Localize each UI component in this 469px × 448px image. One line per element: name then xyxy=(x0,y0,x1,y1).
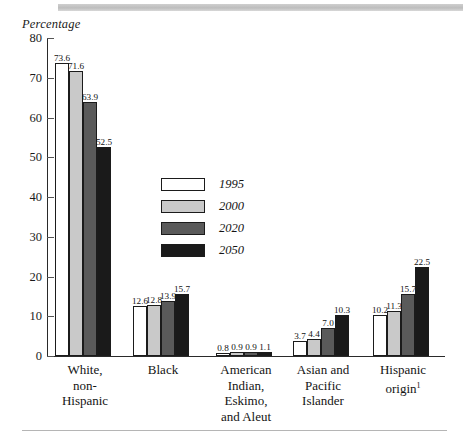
bar: 71.6 xyxy=(69,71,83,356)
y-axis-tick xyxy=(47,316,54,317)
bar-group: 3.74.47.010.3 xyxy=(293,38,349,356)
bar-value-label: 10.3 xyxy=(334,305,350,315)
legend-label: 2050 xyxy=(219,243,244,258)
bar: 0.9 xyxy=(230,352,244,356)
y-axis-tick xyxy=(47,197,54,198)
y-axis-tick-label: 80 xyxy=(2,31,42,46)
category-label-line: non- xyxy=(45,378,125,394)
legend-swatch xyxy=(161,222,205,235)
bar: 0.9 xyxy=(244,352,258,356)
legend-label: 2000 xyxy=(219,199,244,214)
bar-value-label: 63.9 xyxy=(82,92,98,102)
bar-value-label: 15.7 xyxy=(174,284,190,294)
category-label-line: Indian, xyxy=(206,378,286,394)
y-axis-tick xyxy=(47,118,54,119)
bar: 13.9 xyxy=(161,301,175,356)
bar: 7.0 xyxy=(321,328,335,356)
y-axis-tick xyxy=(47,356,54,357)
category-label: Asian andPacificIslander xyxy=(283,362,363,409)
y-axis-tick-label: 0 xyxy=(2,349,42,364)
category-label-line: and Aleut xyxy=(206,409,286,425)
bar: 3.7 xyxy=(293,341,307,356)
category-label-line: Eskimo, xyxy=(206,393,286,409)
bar: 12.6 xyxy=(133,306,147,356)
category-label-line: Asian and xyxy=(283,362,363,378)
bar-value-label: 0.8 xyxy=(217,343,228,353)
chart-page: Percentage 01020304050607080 73.671.663.… xyxy=(0,0,469,448)
bar: 73.6 xyxy=(55,63,69,356)
bar-value-label: 11.3 xyxy=(386,301,402,311)
category-label: White,non-Hispanic xyxy=(45,362,125,409)
category-label-line: Pacific xyxy=(283,378,363,394)
footnote-marker: 1 xyxy=(417,381,421,390)
y-axis-tick-label: 50 xyxy=(2,150,42,165)
bar-group: 10.211.315.722.5 xyxy=(373,38,429,356)
category-label: Hispanicorigin1 xyxy=(363,362,443,396)
header-rule xyxy=(58,4,463,11)
y-axis-tick-label: 60 xyxy=(2,110,42,125)
bar: 10.3 xyxy=(335,315,349,356)
y-axis-tick-label: 30 xyxy=(2,229,42,244)
legend-item[interactable]: 1995 xyxy=(161,176,244,193)
y-axis-tick-label: 70 xyxy=(2,70,42,85)
category-label: Black xyxy=(123,362,203,378)
bar: 12.8 xyxy=(147,305,161,356)
bar: 11.3 xyxy=(387,311,401,356)
bar: 15.7 xyxy=(175,294,189,356)
bar-group: 73.671.663.952.5 xyxy=(55,38,111,356)
bar-value-label: 0.9 xyxy=(231,342,242,352)
bar: 63.9 xyxy=(83,102,97,356)
y-axis-tick-label: 20 xyxy=(2,269,42,284)
x-axis-line xyxy=(47,356,445,357)
bar: 10.2 xyxy=(373,315,387,356)
bar-value-label: 0.9 xyxy=(245,342,256,352)
category-label: AmericanIndian,Eskimo,and Aleut xyxy=(206,362,286,424)
category-label-line: Islander xyxy=(283,393,363,409)
legend-label: 2020 xyxy=(219,221,244,236)
bar: 1.1 xyxy=(258,352,272,356)
category-label-line: Hispanic xyxy=(363,362,443,378)
legend-label: 1995 xyxy=(219,177,244,192)
y-axis-tick xyxy=(47,38,54,39)
category-label-line: American xyxy=(206,362,286,378)
legend-item[interactable]: 2020 xyxy=(161,220,244,237)
y-axis-tick-label: 10 xyxy=(2,309,42,324)
category-label-line: Black xyxy=(123,362,203,378)
legend-swatch xyxy=(161,178,205,191)
y-axis-tick-label: 40 xyxy=(2,190,42,205)
bar: 15.7 xyxy=(401,294,415,356)
bar-value-label: 1.1 xyxy=(259,342,270,352)
category-label-line: origin1 xyxy=(363,378,443,397)
footer-rule xyxy=(22,430,447,431)
y-axis-tick xyxy=(47,78,54,79)
bar-value-label: 4.4 xyxy=(308,329,319,339)
bar: 52.5 xyxy=(97,147,111,356)
bar-value-label: 15.7 xyxy=(400,284,416,294)
bar-value-label: 52.5 xyxy=(96,137,112,147)
y-axis-tick xyxy=(47,237,54,238)
bar: 22.5 xyxy=(415,267,429,356)
legend: 1995200020202050 xyxy=(161,176,244,264)
bar-value-label: 7.0 xyxy=(322,318,333,328)
category-label-line: Hispanic xyxy=(45,393,125,409)
legend-swatch xyxy=(161,244,205,257)
category-label-line: White, xyxy=(45,362,125,378)
y-axis-tick xyxy=(47,157,54,158)
legend-item[interactable]: 2000 xyxy=(161,198,244,215)
legend-item[interactable]: 2050 xyxy=(161,242,244,259)
bar-value-label: 71.6 xyxy=(68,61,84,71)
bar-value-label: 3.7 xyxy=(294,331,305,341)
bar: 4.4 xyxy=(307,339,321,356)
legend-swatch xyxy=(161,200,205,213)
y-axis-tick xyxy=(47,277,54,278)
bar: 0.8 xyxy=(216,353,230,356)
bar-value-label: 22.5 xyxy=(414,257,430,267)
